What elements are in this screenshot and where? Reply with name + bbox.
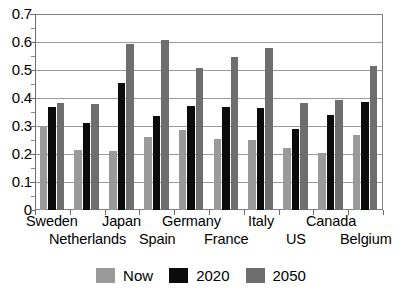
bar-france-2050: [231, 57, 239, 210]
y-axis-minor-tick: [31, 28, 35, 29]
x-axis-category-label: Japan: [102, 213, 141, 229]
y-axis-tick: [30, 182, 35, 183]
legend-item-2020[interactable]: 2020: [169, 268, 229, 283]
y-axis-tick-label: 0.7: [0, 6, 32, 21]
x-axis-category-label: Netherlands: [49, 231, 126, 247]
x-axis-tick: [313, 210, 314, 215]
y-axis-minor-tick: [31, 56, 35, 57]
x-axis-tick: [139, 210, 140, 215]
bar-us-2050: [300, 103, 308, 210]
bar-japan-2020: [118, 83, 126, 210]
y-axis-minor-tick: [31, 84, 35, 85]
bar-germany-now: [179, 130, 187, 210]
bar-germany-2020: [187, 106, 195, 210]
bar-spain-now: [144, 137, 152, 210]
x-axis-category-label: Belgium: [340, 231, 392, 247]
bar-belgium-2050: [370, 66, 378, 210]
legend-label: 2020: [196, 268, 229, 283]
bar-sweden-2050: [57, 103, 65, 210]
x-axis-category-label: Canada: [306, 213, 356, 229]
bar-italy-2020: [257, 108, 265, 210]
bar-canada-2020: [327, 115, 335, 210]
bar-italy-2050: [265, 48, 273, 210]
bar-belgium-now: [353, 135, 361, 210]
x-axis-category-label: Spain: [139, 231, 176, 247]
bar-canada-now: [318, 153, 326, 210]
bar-canada-2050: [335, 100, 343, 210]
bar-france-now: [214, 139, 222, 210]
bar-netherlands-2050: [91, 104, 99, 210]
legend-swatch-icon: [96, 268, 115, 283]
bar-japan-2050: [126, 44, 134, 210]
bar-france-2020: [222, 107, 230, 210]
y-axis-tick: [30, 14, 35, 15]
y-axis-tick-label: 0.2: [0, 146, 32, 161]
legend-label: Now: [123, 268, 153, 283]
y-axis-tick: [30, 70, 35, 71]
bar-italy-now: [248, 140, 256, 210]
bar-chart: 0.70.60.50.40.30.20.10 SwedenNetherlands…: [0, 0, 402, 295]
bar-us-now: [283, 148, 291, 210]
chart-legend: Now20202050: [0, 262, 402, 288]
x-axis-category-label: France: [204, 231, 249, 247]
legend-item-now[interactable]: Now: [96, 268, 153, 283]
y-axis-tick-label: 0.6: [0, 34, 32, 49]
x-axis-tick: [383, 210, 384, 215]
y-axis-tick: [30, 126, 35, 127]
bar-belgium-2020: [361, 102, 369, 210]
y-axis-minor-tick: [31, 112, 35, 113]
bar-sweden-2020: [48, 107, 56, 210]
x-axis-tick: [279, 210, 280, 215]
y-axis-minor-tick: [31, 140, 35, 141]
x-axis-category-label: US: [286, 231, 306, 247]
x-axis-labels: SwedenNetherlandsJapanSpainGermanyFrance…: [0, 212, 402, 256]
x-axis-category-label: Germany: [162, 213, 221, 229]
y-axis-tick-label: 0.3: [0, 118, 32, 133]
x-axis-tick: [105, 210, 106, 215]
x-axis-tick: [348, 210, 349, 215]
bar-germany-2050: [196, 68, 204, 210]
y-axis-tick: [30, 42, 35, 43]
bars-layer: [36, 14, 382, 210]
y-axis-labels: 0.70.60.50.40.30.20.10: [0, 0, 32, 220]
x-axis-tick: [174, 210, 175, 215]
x-axis-tick: [244, 210, 245, 215]
x-axis-tick: [209, 210, 210, 215]
y-axis-minor-tick: [31, 196, 35, 197]
bar-sweden-now: [40, 126, 48, 210]
legend-label: 2050: [273, 268, 306, 283]
y-axis-tick-label: 0.4: [0, 90, 32, 105]
y-axis-tick-label: 0.5: [0, 62, 32, 77]
legend-swatch-icon: [246, 268, 265, 283]
bar-us-2020: [292, 129, 300, 210]
bar-netherlands-now: [74, 150, 82, 210]
bar-spain-2020: [153, 116, 161, 210]
x-axis-category-label: Sweden: [26, 213, 78, 229]
y-axis-tick-label: 0.1: [0, 174, 32, 189]
legend-swatch-icon: [169, 268, 188, 283]
legend-item-2050[interactable]: 2050: [246, 268, 306, 283]
bar-spain-2050: [161, 40, 169, 210]
x-axis-category-label: Italy: [248, 213, 274, 229]
x-axis-tick: [35, 210, 36, 215]
y-axis-tick: [30, 154, 35, 155]
bar-japan-now: [109, 151, 117, 210]
y-axis-tick: [30, 98, 35, 99]
bar-netherlands-2020: [83, 123, 91, 210]
x-axis-tick: [70, 210, 71, 215]
y-axis-minor-tick: [31, 168, 35, 169]
